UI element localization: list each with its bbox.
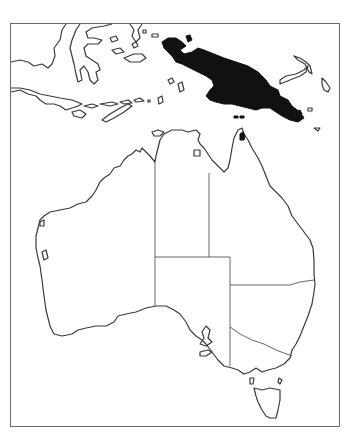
sulawesi-coast [70, 24, 112, 84]
range-map [0, 0, 345, 442]
java-coast [11, 88, 82, 110]
small-islands-east [308, 108, 320, 131]
bass-strait-islands [250, 378, 282, 384]
qld-nsw-border [230, 280, 314, 285]
west-coast-islands [40, 220, 48, 260]
sumba-island [72, 110, 86, 118]
buru-island [112, 48, 124, 54]
groote-eylandt [194, 150, 200, 156]
yorke-peninsula [200, 326, 212, 346]
tasmania-coast [254, 388, 280, 418]
lesser-sunda-islands [84, 98, 144, 108]
map-frame [11, 24, 340, 427]
australia-coast [36, 128, 315, 374]
timor-island [102, 104, 132, 122]
kangaroo-island [200, 350, 212, 356]
banda-islands [148, 78, 184, 104]
sulawesi-east-arm [130, 24, 142, 42]
borneo-coast [11, 24, 66, 68]
melville-island [152, 130, 164, 136]
seram-island [124, 54, 146, 62]
new-britain-island [280, 66, 308, 84]
new-ireland-island [294, 56, 312, 74]
bougainville-island [322, 78, 330, 92]
nsw-vic-border [230, 327, 292, 356]
new-guinea-range [162, 38, 304, 122]
